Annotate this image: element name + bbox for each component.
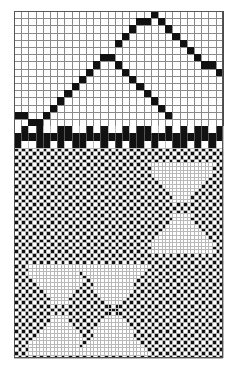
divider-cell-filled: [151, 141, 158, 148]
divider-cell-filled: [136, 141, 143, 148]
divider-cell-filled: [14, 133, 21, 140]
grid-line-vertical: [158, 126, 159, 148]
grid-line-horizontal: [14, 151, 223, 152]
divider-cell-empty: [50, 141, 57, 148]
chart-cell-filled: [216, 69, 223, 76]
chart-cell-filled: [158, 105, 165, 112]
grid-line-horizontal: [14, 195, 223, 196]
divider-cell-filled: [43, 133, 50, 140]
chart-cell-filled: [136, 83, 143, 90]
divider-cell-filled: [122, 126, 129, 133]
grid-line-vertical: [172, 126, 173, 148]
divider-cell-empty: [86, 141, 93, 148]
divider-cell-filled: [208, 133, 215, 140]
chart-cell-filled: [187, 47, 194, 54]
chart-cell-filled: [108, 54, 115, 61]
grid-line-vertical: [28, 126, 29, 148]
grid-line-horizontal: [14, 166, 223, 167]
divider-cell-empty: [187, 141, 194, 148]
chart-cell-filled: [122, 69, 129, 76]
grid-line-vertical: [43, 126, 44, 148]
grid-line-horizontal: [14, 159, 223, 160]
divider-cell-filled: [72, 141, 79, 148]
grid-line-horizontal: [14, 264, 223, 265]
divider-cell-empty: [201, 141, 208, 148]
grid-line-horizontal: [14, 33, 223, 34]
upper-zigzag-grid: [14, 11, 223, 126]
divider-cell-filled: [14, 141, 21, 148]
divider-cell-empty: [28, 141, 35, 148]
grid-line-vertical: [165, 126, 166, 148]
divider-cell-empty: [64, 141, 71, 148]
divider-cell-filled: [21, 133, 28, 140]
divider-cell-filled: [136, 126, 143, 133]
chart-cell-filled: [115, 40, 122, 47]
chart-cell-filled: [28, 119, 35, 126]
grid-line-vertical: [216, 126, 217, 148]
grid-line-vertical: [223, 148, 224, 359]
grid-line-horizontal: [14, 69, 223, 70]
divider-cell-filled: [64, 126, 71, 133]
divider-cell-filled: [194, 126, 201, 133]
grid-line-horizontal: [14, 188, 223, 189]
grid-line-horizontal: [14, 25, 223, 26]
divider-cell-empty: [172, 126, 179, 133]
pattern-chart: [0, 0, 233, 375]
grid-line-vertical: [79, 126, 80, 148]
grid-line-vertical: [208, 126, 209, 148]
grid-line-horizontal: [14, 347, 223, 348]
chart-cell-filled: [57, 97, 64, 104]
grid-line-horizontal: [14, 293, 223, 294]
grid-line-horizontal: [14, 148, 223, 149]
grid-line-vertical: [14, 126, 15, 148]
divider-cell-filled: [208, 141, 215, 148]
grid-line-vertical: [201, 126, 202, 148]
grid-line-horizontal: [14, 355, 223, 356]
grid-line-horizontal: [14, 318, 223, 319]
grid-line-vertical: [100, 126, 101, 148]
divider-cell-filled: [194, 141, 201, 148]
grid-line-horizontal: [14, 217, 223, 218]
chart-cell-filled: [144, 18, 151, 25]
divider-cell-filled: [115, 133, 122, 140]
grid-line-horizontal: [14, 54, 223, 55]
chart-cell-filled: [158, 18, 165, 25]
chart-cell-filled: [144, 90, 151, 97]
divider-cell-filled: [201, 133, 208, 140]
grid-line-horizontal: [14, 235, 223, 236]
chart-cell-filled: [115, 61, 122, 68]
divider-bar-grid: [14, 126, 223, 148]
divider-cell-filled: [86, 126, 93, 133]
divider-cell-empty: [43, 126, 50, 133]
divider-cell-filled: [100, 126, 107, 133]
grid-line-horizontal: [14, 260, 223, 261]
chart-cell-filled: [165, 25, 172, 32]
chart-cell-filled: [122, 33, 129, 40]
grid-line-vertical: [36, 126, 37, 148]
divider-cell-filled: [216, 126, 223, 133]
grid-line-horizontal: [14, 351, 223, 352]
chart-cell-filled: [172, 33, 179, 40]
grid-line-vertical: [72, 126, 73, 148]
chart-cell-filled: [208, 61, 215, 68]
grid-line-vertical: [93, 126, 94, 148]
divider-cell-filled: [79, 133, 86, 140]
grid-line-vertical: [129, 126, 130, 148]
chart-cell-filled: [180, 40, 187, 47]
chart-cell-filled: [151, 11, 158, 18]
divider-cell-filled: [115, 141, 122, 148]
divider-cell-filled: [187, 133, 194, 140]
divider-cell-filled: [57, 141, 64, 148]
grid-line-horizontal: [14, 249, 223, 250]
grid-line-horizontal: [14, 246, 223, 247]
divider-cell-filled: [180, 126, 187, 133]
grid-line-horizontal: [14, 180, 223, 181]
grid-line-vertical: [136, 126, 137, 148]
divider-cell-empty: [187, 126, 194, 133]
divider-cell-filled: [28, 133, 35, 140]
divider-cell-filled: [144, 126, 151, 133]
grid-line-horizontal: [14, 337, 223, 338]
chart-cell-filled: [50, 105, 57, 112]
grid-line-horizontal: [14, 304, 223, 305]
divider-cell-empty: [115, 126, 122, 133]
